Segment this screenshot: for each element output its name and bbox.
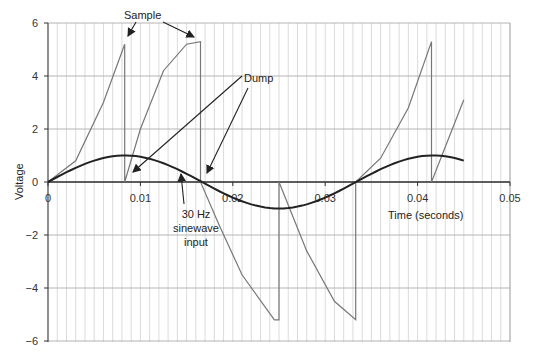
y-tick-label: −2 — [25, 229, 38, 241]
y-axis-ticks: 6420−2−4−6 — [25, 17, 48, 347]
y-tick-label: 6 — [32, 17, 38, 29]
y-tick-label: 4 — [32, 70, 38, 82]
x-tick-label: 0.04 — [407, 192, 428, 204]
x-tick-label: 0.05 — [499, 192, 520, 204]
y-axis-label: Voltage — [13, 163, 25, 200]
y-tick-label: 2 — [32, 123, 38, 135]
sample-annotation: Sample — [124, 9, 161, 21]
y-tick-label: −4 — [25, 282, 38, 294]
chart: 00.010.020.030.040.05 6420−2−4−6 SampleD… — [0, 0, 534, 360]
dump-annotation: Dump — [244, 72, 273, 84]
y-tick-label: 0 — [32, 176, 38, 188]
x-axis-label: Time (seconds) — [388, 209, 463, 221]
y-tick-label: −6 — [25, 335, 38, 347]
sinewave-input-annotation: 30 Hzsinewaveinput — [173, 208, 219, 248]
x-tick-label: 0 — [45, 192, 51, 204]
x-tick-label: 0.01 — [130, 192, 151, 204]
